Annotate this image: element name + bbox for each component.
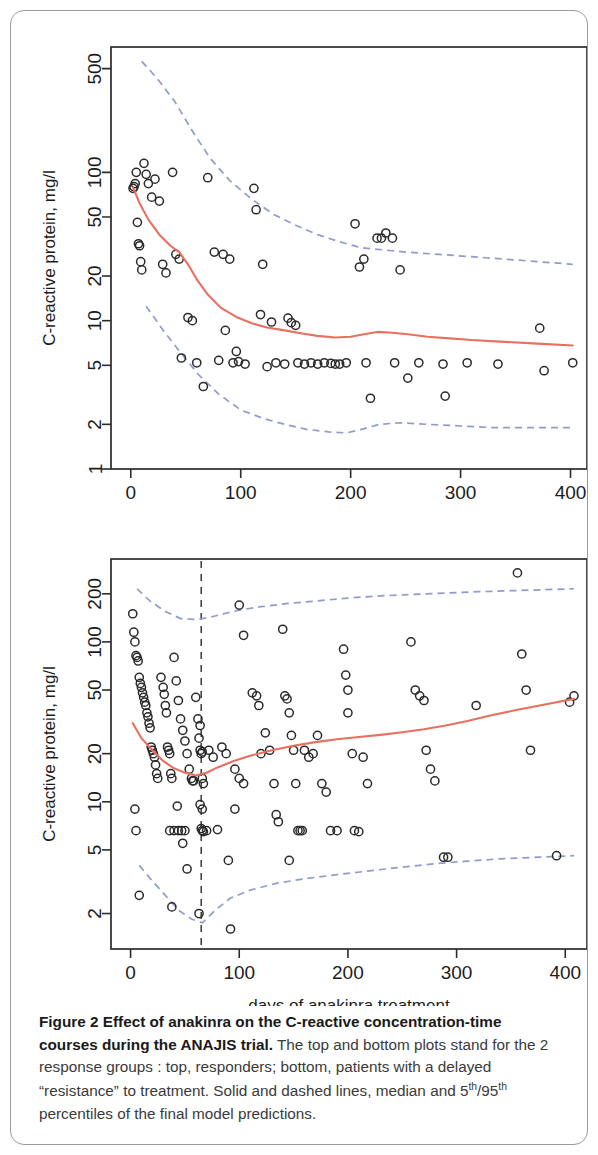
data-point	[183, 750, 191, 758]
data-point	[250, 184, 258, 192]
plot-panel-bottom: 251020501002000100200300400C-reactive pr…	[40, 559, 588, 1006]
data-point	[130, 628, 138, 636]
data-point	[224, 856, 232, 864]
data-point	[226, 255, 234, 263]
x-axis-tick-label: 100	[223, 962, 255, 983]
y-axis-tick-label: 2	[85, 908, 106, 919]
median-line	[133, 188, 573, 346]
data-point	[131, 638, 139, 646]
y-axis-tick-label: 500	[85, 53, 106, 85]
y-axis-tick-label: 50	[85, 679, 106, 700]
data-point	[285, 709, 293, 717]
y-axis-tick-label: 100	[85, 626, 106, 658]
data-point	[176, 715, 184, 723]
y-axis-title: C-reactive protein, mg/l	[40, 170, 59, 346]
data-point	[313, 731, 321, 739]
data-point	[142, 170, 150, 178]
x-axis-tick-label: 200	[332, 962, 364, 983]
data-point	[229, 359, 237, 367]
data-point	[210, 248, 218, 256]
y-axis-tick-label: 10	[85, 310, 106, 331]
x-axis-tick-label: 300	[441, 962, 473, 983]
data-point	[235, 601, 243, 609]
data-point	[170, 653, 178, 661]
data-point	[513, 569, 521, 577]
data-point	[363, 779, 371, 787]
data-point	[404, 374, 412, 382]
data-point	[204, 174, 212, 182]
data-point	[199, 382, 207, 390]
data-point	[192, 693, 200, 701]
data-point	[526, 746, 534, 754]
data-point	[154, 774, 162, 782]
x-axis-tick-label: 400	[549, 962, 581, 983]
data-point	[388, 234, 396, 242]
data-point	[396, 266, 404, 274]
data-point	[407, 638, 415, 646]
plot-panel-top: 1251020501005000100200300400C-reactive p…	[40, 47, 588, 503]
data-point	[131, 805, 139, 813]
figure-caption: Figure 2 Effect of anakinra on the C-rea…	[39, 1011, 563, 1125]
data-point	[256, 310, 264, 318]
x-axis-title: days of anakinra treatment	[248, 996, 450, 1006]
data-point	[209, 753, 217, 761]
y-axis-tick-label: 200	[85, 578, 106, 610]
data-point	[252, 206, 260, 214]
data-point	[569, 359, 577, 367]
data-point	[391, 359, 399, 367]
data-point	[193, 359, 201, 367]
data-point	[168, 774, 176, 782]
data-point	[151, 761, 159, 769]
data-point	[179, 726, 187, 734]
data-point	[362, 359, 370, 367]
data-point	[441, 392, 449, 400]
data-point	[159, 260, 167, 268]
data-point	[285, 856, 293, 864]
data-point	[272, 359, 280, 367]
data-point	[132, 827, 140, 835]
caption-sup-th-2: th	[498, 1081, 507, 1092]
data-point	[518, 650, 526, 658]
y-axis-tick-label: 5	[85, 360, 106, 371]
data-point	[255, 701, 263, 709]
data-point	[181, 737, 189, 745]
data-point	[344, 709, 352, 717]
y-axis-tick-label: 20	[85, 743, 106, 764]
x-axis-tick-label: 400	[555, 482, 587, 503]
data-point	[151, 175, 159, 183]
data-point	[439, 360, 447, 368]
data-point	[232, 347, 240, 355]
data-point	[239, 631, 247, 639]
data-point	[463, 359, 471, 367]
x-axis-tick-label: 0	[125, 962, 136, 983]
data-point	[157, 673, 165, 681]
data-point	[267, 318, 275, 326]
data-point	[426, 765, 434, 773]
data-point	[140, 159, 148, 167]
data-point	[472, 701, 480, 709]
data-point	[138, 266, 146, 274]
data-point	[431, 777, 439, 785]
caption-sup-th-1: th	[468, 1081, 477, 1092]
data-point	[129, 610, 137, 618]
data-point	[137, 258, 145, 266]
data-point	[536, 324, 544, 332]
data-point	[215, 356, 223, 364]
median-line	[133, 699, 574, 776]
caption-tail: percentiles of the final model predictio…	[39, 1105, 316, 1122]
percentile-upper-line	[142, 61, 573, 264]
data-point	[342, 671, 350, 679]
data-point	[360, 255, 368, 263]
y-axis-tick-label: 5	[85, 845, 106, 856]
data-point	[540, 367, 548, 375]
data-point	[235, 774, 243, 782]
data-point	[179, 839, 187, 847]
data-point	[172, 677, 180, 685]
x-axis-tick-label: 200	[335, 482, 367, 503]
data-point	[222, 750, 230, 758]
data-point	[148, 193, 156, 201]
y-axis-tick-label: 100	[85, 156, 106, 188]
data-point	[231, 765, 239, 773]
caption-mid: /95	[477, 1082, 498, 1099]
y-axis-title: C-reactive protein, mg/l	[40, 666, 59, 842]
